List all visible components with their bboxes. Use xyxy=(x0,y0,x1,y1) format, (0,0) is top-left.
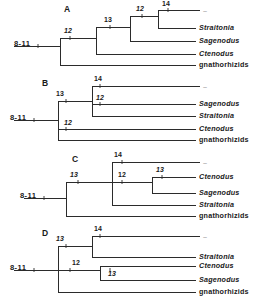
panel-letter-a: A xyxy=(64,5,70,14)
tip-label-d-sagenodus: Sagenodus xyxy=(199,276,240,283)
tip-label-a-gnathorhizids: gnathorhizids xyxy=(199,61,249,68)
node-label-d-14: 14 xyxy=(94,225,102,232)
root-label-c: 8-11 xyxy=(20,192,36,200)
tip-label-d-1: – xyxy=(203,233,207,240)
node-label-c-13a: 13 xyxy=(70,171,78,178)
panel-letter-d: D xyxy=(42,229,48,238)
tip-label-d-ctenodus: Ctenodus xyxy=(199,262,234,269)
root-label-b: 8-11 xyxy=(10,114,26,122)
panel-letter-c: C xyxy=(72,155,78,164)
node-label-c-14: 14 xyxy=(114,151,122,158)
cladogram-panel-c: C 8-11 13 14 12 13 – Ctenodus Sagenodus … xyxy=(0,150,268,226)
tip-label-d-gnathorhizids: gnathorhizids xyxy=(199,288,249,295)
node-label-d-13a: 13 xyxy=(56,235,64,242)
tip-label-c-ctenodus: Ctenodus xyxy=(199,173,234,180)
root-label-a: 8-11 xyxy=(14,40,30,48)
tip-label-c-sagenodus: Sagenodus xyxy=(199,189,240,196)
tip-label-a-straitonia: Straitonia xyxy=(199,24,234,31)
tip-label-b-straitonia: Straitonia xyxy=(199,112,234,119)
tip-label-b-sagenodus: Sagenodus xyxy=(199,100,240,107)
node-label-b-12a: 12 xyxy=(96,94,104,101)
tip-label-c-1: – xyxy=(203,159,207,166)
tip-label-c-gnathorhizids: gnathorhizids xyxy=(199,212,249,219)
node-label-a-14: 14 xyxy=(162,0,170,7)
node-label-b-13: 13 xyxy=(56,90,64,97)
tip-label-a-1: – xyxy=(203,7,207,14)
tip-label-b-ctenodus: Ctenodus xyxy=(199,125,234,132)
root-label-d: 8-11 xyxy=(10,264,26,272)
tip-label-d-straitonia: Straitonia xyxy=(199,253,234,260)
cladogram-panel-b: B 8-11 13 14 12 12 – Sagenodus Straitoni… xyxy=(0,74,268,150)
tip-label-b-1: – xyxy=(203,83,207,90)
tip-label-a-ctenodus: Ctenodus xyxy=(199,50,234,57)
node-label-c-13b: 13 xyxy=(156,166,164,173)
tip-label-c-straitonia: Straitonia xyxy=(199,201,234,208)
tip-label-b-gnathorhizids: gnathorhizids xyxy=(199,136,249,143)
node-label-d-13b: 13 xyxy=(108,270,116,277)
node-label-c-12: 12 xyxy=(118,171,126,178)
node-label-a-13: 13 xyxy=(104,16,112,23)
node-label-b-14: 14 xyxy=(94,75,102,82)
node-label-a-12a: 12 xyxy=(64,27,72,34)
node-label-a-12b: 12 xyxy=(136,5,144,12)
node-label-b-12b: 12 xyxy=(64,119,72,126)
tip-label-a-sagenodus: Sagenodus xyxy=(199,37,240,44)
node-label-d-12: 12 xyxy=(72,259,80,266)
cladogram-panel-d: D 8-11 13 14 12 13 – Straitonia Ctenodus… xyxy=(0,224,268,300)
cladogram-figure: A 8-11 12 13 12 14 – Straitonia Sagenodu… xyxy=(0,0,268,301)
cladogram-panel-a: A 8-11 12 13 12 14 – Straitonia Sagenodu… xyxy=(0,0,268,76)
panel-letter-b: B xyxy=(42,79,48,88)
